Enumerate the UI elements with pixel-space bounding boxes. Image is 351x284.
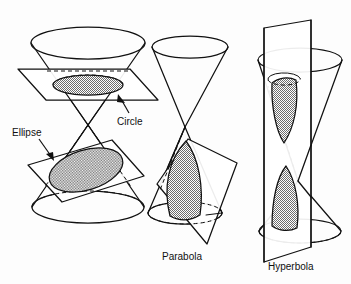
conic-sections-figure: Circle Ellipse (0, 0, 351, 284)
cone-edge-left-upper-2 (152, 47, 185, 127)
cone-upper-nappe-2 (152, 36, 228, 127)
annotation-ellipse: Ellipse (12, 127, 54, 161)
panel-hyperbola: Hyperbola (258, 20, 342, 272)
circle-label: Circle (117, 116, 143, 127)
ellipse-label: Ellipse (12, 127, 42, 138)
hyperbola-caption: Hyperbola (268, 261, 314, 272)
panel-circle-ellipse: Circle Ellipse (12, 27, 158, 223)
conic-sections-svg: Circle Ellipse (0, 0, 351, 284)
panel-parabola: Parabola (148, 36, 237, 262)
cone-top-ellipse-upper-2 (152, 36, 228, 58)
parabola-caption: Parabola (162, 251, 202, 262)
cone-top-ellipse-upper-1 (31, 27, 145, 59)
cone-edge-right-upper-2 (185, 47, 228, 127)
circle-cross-section (53, 75, 123, 95)
